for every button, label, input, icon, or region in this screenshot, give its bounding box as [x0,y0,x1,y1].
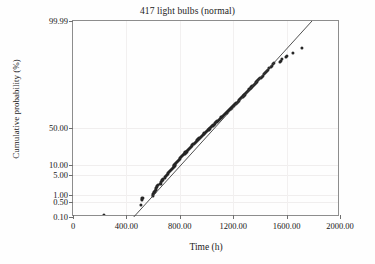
y-axis-title: Cumulative probability (%) [11,24,21,194]
x-tick-mark [126,215,127,219]
y-tick-label: 5.00 [53,170,68,180]
x-tick-mark [180,215,181,219]
fit-line [73,21,338,215]
x-tick-label: 1600.00 [273,221,301,231]
x-tick-mark [287,215,288,219]
y-tick-label: 99.99 [49,16,68,26]
x-tick-label: 400.00 [115,221,138,231]
x-tick-label: 0 [71,221,75,231]
x-axis-title: Time (h) [72,242,340,252]
x-tick-mark [340,215,341,219]
y-tick-label: 10.00 [49,160,68,170]
x-tick-mark [73,215,74,219]
y-tick-label: 50.00 [49,123,68,133]
chart-title: 417 light bulbs (normal) [0,6,375,16]
y-tick-label: 0.10 [53,212,68,222]
x-tick-label: 1200.00 [219,221,247,231]
x-tick-label: 800.00 [168,221,191,231]
x-tick-mark [233,215,234,219]
plot-area: 0.100.501.005.0010.0050.0099.990400.0080… [72,20,339,216]
y-tick-label: 1.00 [53,190,68,200]
normal-probability-plot-figure: 417 light bulbs (normal) Cumulative prob… [0,0,375,264]
x-tick-label: 2000.00 [326,221,354,231]
